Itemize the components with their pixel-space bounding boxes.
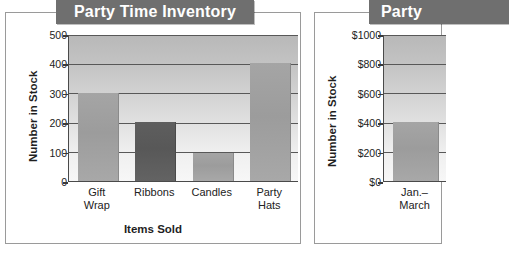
x-axis-tick-label: Ribbons	[126, 186, 184, 199]
y-axis-tick-mark	[378, 64, 383, 66]
bar-ribbons	[135, 122, 176, 181]
y-axis-tick-mark	[378, 182, 383, 184]
plot-area-right	[383, 35, 446, 182]
gridline	[69, 35, 298, 36]
y-axis-tick-mark	[63, 35, 68, 37]
y-axis-tick-mark	[378, 35, 383, 37]
x-axis-tick-labels-right: Jan.–March	[383, 186, 445, 218]
x-axis-tick-label: Jan.–March	[383, 186, 446, 212]
bar-candles	[193, 153, 234, 181]
bar-gift-wrap	[78, 93, 119, 181]
gridline	[384, 35, 446, 36]
y-axis-tick-labels-right: $0$200$400$600$800$1000	[314, 12, 381, 244]
y-axis-tick-labels-left: 0100200300400500	[15, 12, 67, 244]
y-axis-tick-mark	[63, 153, 68, 155]
bar-chart-party-time-inventory: Number in Stock 0100200300400500 GiftWra…	[5, 12, 301, 244]
y-axis-tick-mark	[63, 64, 68, 66]
y-axis-tick-mark	[378, 94, 383, 96]
x-axis-tick-labels-left: GiftWrapRibbonsCandlesPartyHats	[68, 186, 297, 218]
gridline	[384, 93, 446, 94]
x-axis-tick-label: Candles	[183, 186, 241, 199]
bar-party-hats	[250, 63, 291, 181]
y-axis-tick-label: $1000	[352, 29, 381, 41]
chart-title-banner-left: Party Time Inventory	[56, 0, 254, 24]
y-axis-tick-mark	[63, 182, 68, 184]
x-axis-tick-label: GiftWrap	[68, 186, 126, 212]
y-axis-tick-mark	[378, 153, 383, 155]
x-axis-title-left: Items Sold	[5, 223, 301, 235]
y-axis-tick-mark	[378, 123, 383, 125]
plot-area-left	[68, 35, 298, 182]
y-axis-tick-mark	[63, 94, 68, 96]
bar-jan-march	[393, 122, 439, 181]
y-axis-tick-mark	[63, 123, 68, 125]
gridline	[384, 64, 446, 65]
bar-chart-party-right: Number in Stock $0$200$400$600$800$1000 …	[314, 12, 442, 244]
x-axis-tick-label: PartyHats	[241, 186, 299, 212]
chart-title-banner-right: Party	[369, 0, 509, 24]
